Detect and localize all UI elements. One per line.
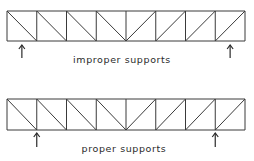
diagonal-member	[215, 99, 245, 130]
diagonal-member	[7, 99, 37, 130]
truss-proper-supports	[7, 99, 245, 147]
truss-support-diagram: improper supports proper supports	[0, 0, 254, 161]
diagonal-member	[37, 11, 67, 41]
diagonal-member	[67, 99, 97, 130]
diagonal-member	[126, 11, 156, 41]
diagonal-member	[186, 11, 216, 41]
diagonal-member	[156, 99, 186, 130]
diagonal-member	[156, 11, 186, 41]
diagonal-member	[96, 99, 126, 130]
truss-improper-supports	[7, 11, 245, 58]
support-arrow-icon	[227, 45, 233, 58]
diagonal-member	[7, 11, 37, 41]
diagonal-member	[215, 11, 245, 41]
support-arrow-icon	[34, 133, 40, 147]
caption-proper-supports: proper supports	[82, 143, 167, 154]
diagonal-member	[67, 11, 97, 41]
diagonal-member	[186, 99, 216, 130]
diagonal-member	[126, 99, 156, 130]
caption-improper-supports: improper supports	[73, 54, 171, 65]
support-arrow-icon	[212, 133, 218, 147]
support-arrow-icon	[19, 45, 25, 58]
diagonal-member	[96, 11, 126, 41]
diagonal-member	[37, 99, 67, 130]
